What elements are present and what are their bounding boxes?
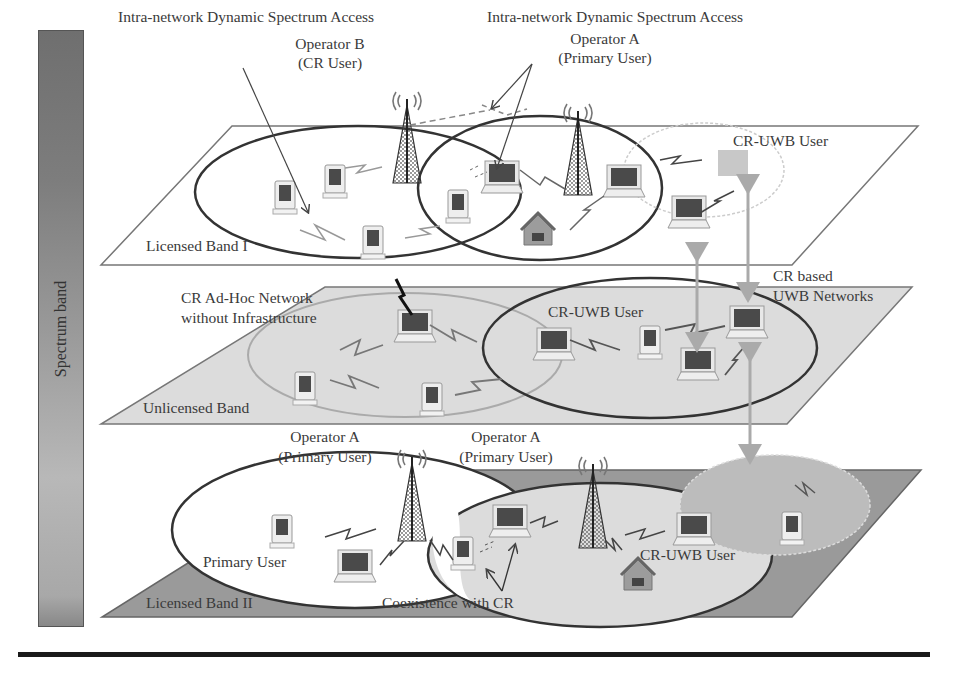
unlicensed-band-label: Unlicensed Band: [143, 398, 249, 417]
primary-user-label: Primary User: [203, 552, 286, 571]
operator-a-right-name: Operator A: [436, 427, 576, 446]
licensed-band-2-label: Licensed Band II: [146, 593, 253, 612]
dsa-right-label: Intra-network Dynamic Spectrum Access: [487, 7, 743, 26]
cr-based-label-line1: CR based: [773, 266, 833, 285]
diagram-canvas: [0, 0, 954, 673]
figure-bottom-rule: [18, 652, 930, 657]
operator-b-role: (CR User): [275, 53, 385, 72]
dsa-left-label: Intra-network Dynamic Spectrum Access: [118, 7, 374, 26]
operator-a-top-name: Operator A: [540, 29, 670, 48]
operator-b-name: Operator B: [275, 34, 385, 53]
operator-a-top-role: (Primary User): [540, 48, 670, 67]
cr-uwb-user-bottom-label: CR-UWB User: [640, 545, 735, 564]
cr-based-label-line2: UWB Networks: [773, 286, 873, 305]
operator-a-right-role: (Primary User): [436, 447, 576, 466]
operator-a-left-role: (Primary User): [255, 447, 395, 466]
cr-uwb-user-mid-label: CR-UWB User: [548, 302, 643, 321]
operator-a-left-name: Operator A: [255, 427, 395, 446]
adhoc-label-line1: CR Ad-Hoc Network: [181, 288, 313, 307]
licensed-band-1-label: Licensed Band I: [146, 236, 248, 255]
adhoc-label-line2: without Infrastructure: [181, 308, 317, 327]
cr-uwb-user-top-label: CR-UWB User: [733, 131, 828, 150]
coexistence-label: Coexistence with CR: [382, 593, 514, 612]
